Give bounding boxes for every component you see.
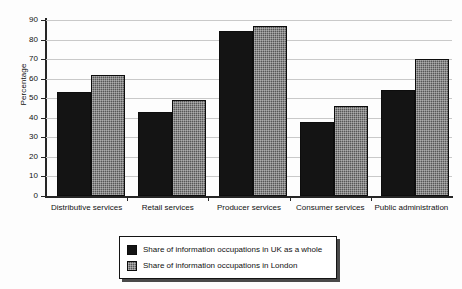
bar [138,112,172,196]
bar [91,75,125,196]
chart-legend: Share of information occupations in UK a… [119,236,337,279]
bar [172,100,206,196]
y-axis-tick-label: 90 [10,16,38,24]
legend-label-london: Share of information occupations in Lond… [143,261,297,270]
y-axis-tick-label: 60 [10,75,38,83]
bar-group [381,20,449,196]
x-axis-category-label: Consumer services [290,203,371,213]
bar-group [57,20,125,196]
bar [253,26,287,196]
legend-item: Share of information occupations in UK a… [127,243,328,256]
legend-label-uk: Share of information occupations in UK a… [143,245,322,254]
bar-group [219,20,287,196]
bar [300,122,334,196]
y-axis-tick-label: 0 [10,192,38,200]
bar-group [300,20,368,196]
legend-swatch-london [127,261,137,271]
bar-group [138,20,206,196]
x-axis-tick-mark [208,196,209,201]
bar [381,90,415,196]
x-axis-category-label: Public administration [371,203,452,213]
x-axis-category-label: Producer services [208,203,289,213]
x-axis-line [45,196,453,198]
x-axis-tick-mark [127,196,128,201]
x-axis-category-label: Distributive services [46,203,127,213]
x-axis-tick-mark [371,196,372,201]
y-axis-tick-mark [41,196,46,197]
bar-chart-figure: Percentage 0102030405060708090 Distribut… [0,0,462,289]
y-axis-tick-label: 80 [10,36,38,44]
legend-swatch-uk [127,245,137,255]
legend-item: Share of information occupations in Lond… [127,259,328,272]
plot-area [46,20,452,196]
y-axis-tick-label: 10 [10,172,38,180]
x-axis-category-label: Retail services [127,203,208,213]
y-axis-tick-label: 70 [10,55,38,63]
y-axis-tick-label: 20 [10,153,38,161]
bar [415,59,449,196]
bar [219,31,253,196]
y-axis-tick-label: 30 [10,133,38,141]
y-axis-tick-label: 50 [10,94,38,102]
y-axis-tick-label: 40 [10,114,38,122]
bar [57,92,91,196]
x-axis-tick-mark [290,196,291,201]
bar [334,106,368,196]
